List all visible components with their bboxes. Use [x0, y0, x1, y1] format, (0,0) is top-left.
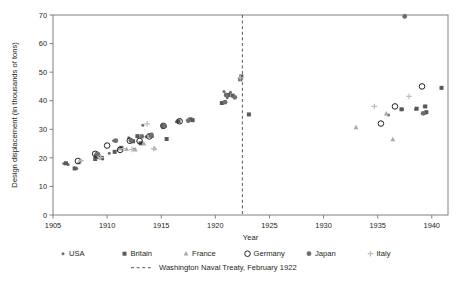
point-japan-2: [129, 138, 134, 143]
point-germany-10: [378, 121, 384, 127]
point-britain-4: [113, 150, 117, 154]
x-tick-label-1930: 1930: [315, 221, 331, 230]
point-britain-0: [64, 161, 68, 165]
series-germany: [75, 84, 425, 164]
legend-marker-usa-icon: [62, 252, 65, 255]
legend-label-japan: Japan: [315, 249, 336, 258]
point-italy-7: [372, 104, 378, 110]
y-axis-title: Design displacement (in thousands of ton…: [10, 42, 19, 188]
point-germany-12: [419, 84, 425, 90]
x-tick-label-1915: 1915: [153, 221, 169, 230]
legend-marker-france-icon: [184, 251, 189, 256]
legend-item-japan[interactable]: Japan: [307, 249, 336, 258]
y-tick-label-50: 50: [39, 68, 47, 77]
point-japan-6: [186, 118, 191, 123]
point-japan-11: [421, 111, 426, 116]
point-japan-8: [224, 93, 229, 98]
y-tick-label-0: 0: [43, 211, 47, 220]
point-japan-4: [149, 133, 154, 138]
point-britain-25: [440, 86, 444, 90]
legend-item-germany[interactable]: Germany: [245, 249, 285, 258]
series-usa: [62, 90, 426, 170]
legend-label-italy: Italy: [377, 249, 391, 258]
y-tick-label-60: 60: [39, 39, 47, 48]
point-italy-5: [151, 146, 157, 152]
y-axis: 010203040506070: [39, 11, 53, 220]
point-britain-11: [165, 137, 169, 141]
point-japan-3: [139, 134, 144, 139]
series-france: [77, 111, 396, 164]
point-britain-21: [399, 107, 403, 111]
point-germany-3: [104, 143, 110, 149]
point-usa-6: [108, 152, 111, 155]
point-japan-9: [232, 95, 237, 100]
point-britain-22: [415, 107, 419, 111]
legend: USABritainFranceGermanyJapanItalyWashing…: [62, 249, 391, 272]
scatter-plot: 0102030405060701905191019151920192519301…: [0, 0, 468, 284]
point-italy-3: [129, 147, 135, 153]
point-usa-18: [222, 90, 225, 93]
point-japan-7: [223, 100, 228, 105]
point-france-8: [384, 111, 389, 116]
point-italy-8: [406, 94, 412, 100]
y-tick-label-70: 70: [39, 11, 47, 20]
point-japan-1: [113, 138, 118, 143]
x-tick-label-1935: 1935: [369, 221, 385, 230]
point-italy-4: [144, 121, 150, 127]
x-tick-label-1940: 1940: [424, 221, 440, 230]
point-france-7: [354, 125, 359, 130]
legend-label-germany: Germany: [254, 249, 285, 258]
legend-marker-japan-icon: [307, 251, 312, 256]
point-britain-7: [135, 134, 139, 138]
point-britain-14: [191, 118, 195, 122]
legend-label-usa: USA: [69, 249, 86, 258]
legend-item-treaty: Washington Naval Treaty, February 1922: [131, 263, 297, 272]
x-tick-label-1925: 1925: [261, 221, 277, 230]
series-japan: [95, 14, 426, 156]
x-tick-label-1920: 1920: [207, 221, 223, 230]
legend-item-britain[interactable]: Britain: [123, 249, 153, 258]
legend-label-france: France: [192, 249, 216, 258]
point-britain-23: [423, 104, 427, 108]
x-tick-label-1905: 1905: [45, 221, 61, 230]
series-britain: [64, 74, 444, 170]
x-axis-title: Year: [243, 233, 259, 242]
point-japan-10: [402, 14, 407, 19]
legend-label-britain: Britain: [131, 249, 153, 258]
point-japan-5: [162, 123, 167, 128]
point-britain-1: [73, 166, 77, 170]
y-tick-label-40: 40: [39, 96, 47, 105]
legend-item-france[interactable]: France: [184, 249, 216, 258]
x-axis: 19051910191519201925193019351940: [45, 215, 440, 230]
legend-marker-italy-icon: [368, 251, 374, 257]
chart-figure: 0102030405060701905191019151920192519301…: [0, 0, 468, 284]
point-germany-11: [392, 104, 398, 110]
point-britain-20: [247, 112, 251, 116]
legend-marker-britain-icon: [123, 252, 127, 256]
legend-item-italy[interactable]: Italy: [368, 249, 391, 258]
y-tick-label-10: 10: [39, 182, 47, 191]
point-usa-12: [141, 124, 144, 127]
y-tick-label-20: 20: [39, 154, 47, 163]
x-tick-label-1910: 1910: [99, 221, 115, 230]
legend-marker-germany-icon: [245, 251, 251, 257]
legend-treaty-label: Washington Naval Treaty, February 1922: [159, 263, 297, 272]
legend-item-usa[interactable]: USA: [62, 249, 86, 258]
point-france-9: [390, 137, 395, 142]
point-japan-0: [95, 151, 100, 156]
y-tick-label-30: 30: [39, 125, 47, 134]
